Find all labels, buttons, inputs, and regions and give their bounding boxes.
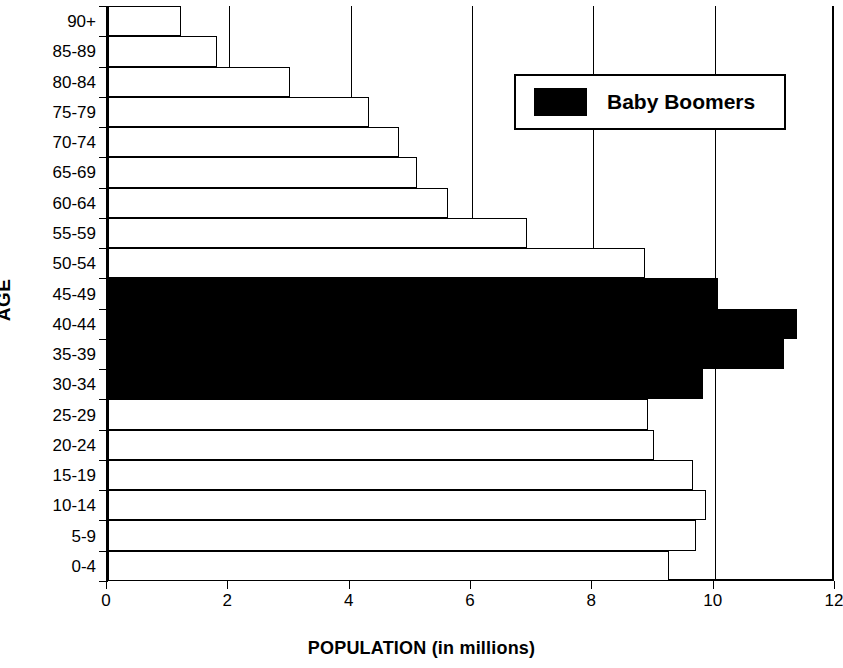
y-axis-tick-label: 45-49 (53, 286, 96, 303)
bar-row (108, 309, 836, 339)
bar-55-59 (108, 218, 527, 248)
y-axis-tick-label: 50-54 (53, 255, 96, 272)
x-axis-tick-label: 12 (825, 592, 843, 609)
x-axis-tick-label: 10 (703, 592, 722, 609)
x-axis-title: POPULATION (in millions) (0, 638, 843, 659)
bar-80-84 (108, 67, 290, 97)
bar-row (108, 399, 836, 429)
x-axis-tick (227, 581, 228, 589)
x-axis-tick-label: 2 (223, 592, 232, 609)
x-axis-tick-label: 6 (465, 592, 474, 609)
bar-row (108, 248, 836, 278)
y-axis-tick-label: 35-39 (53, 346, 96, 363)
bar-row (108, 520, 836, 550)
y-axis-tick-label: 90+ (67, 13, 96, 30)
y-axis-tick-label: 85-89 (53, 43, 96, 60)
y-axis-tick (99, 551, 108, 552)
y-axis-tick-label: 40-44 (53, 316, 96, 333)
x-axis-tick (470, 581, 471, 589)
bar-40-44 (108, 309, 797, 339)
bar-90plus (108, 6, 181, 36)
bar-60-64 (108, 188, 448, 218)
bar-row (108, 430, 836, 460)
y-axis-tick (99, 127, 108, 128)
bar-10-14 (108, 490, 706, 520)
y-axis-tick-label: 70-74 (53, 134, 96, 151)
bar-20-24 (108, 430, 654, 460)
bar-5-9 (108, 520, 696, 550)
y-axis-tick (99, 218, 108, 219)
bar-row (108, 6, 836, 36)
x-axis-tick (834, 581, 835, 589)
x-axis-tick-label: 8 (587, 592, 596, 609)
y-axis-tick (99, 36, 108, 37)
y-axis-tick-label: 80-84 (53, 74, 96, 91)
x-axis-tick (349, 581, 350, 589)
y-axis-tick-label: 25-29 (53, 407, 96, 424)
bar-15-19 (108, 460, 693, 490)
x-axis-tick (591, 581, 592, 589)
chart-figure: AGE 90+85-8980-8475-7970-7465-6960-6455-… (0, 0, 843, 668)
y-axis-tick (99, 369, 108, 370)
bar-85-89 (108, 36, 217, 66)
bar-row (108, 369, 836, 399)
y-axis-tick (99, 278, 108, 279)
y-axis-tick (99, 248, 108, 249)
y-axis-tick (99, 157, 108, 158)
bar-row (108, 278, 836, 308)
y-axis-tick (99, 460, 108, 461)
y-axis-tick (99, 188, 108, 189)
bar-row (108, 36, 836, 66)
legend-swatch-baby-boomers (534, 88, 587, 116)
bar-45-49 (108, 278, 718, 308)
bar-row (108, 157, 836, 187)
y-axis-tick-label: 75-79 (53, 104, 96, 121)
bar-65-69 (108, 157, 417, 187)
y-axis-tick-label: 65-69 (53, 164, 96, 181)
x-axis-tick (106, 581, 107, 589)
y-axis-tick (99, 399, 108, 400)
bar-30-34 (108, 369, 703, 399)
y-axis-tick (99, 67, 108, 68)
x-axis-tick (713, 581, 714, 589)
legend: Baby Boomers (514, 74, 786, 130)
bar-row (108, 218, 836, 248)
y-axis-tick (99, 6, 108, 7)
y-axis-tick (99, 520, 108, 521)
y-axis-title: AGE (0, 279, 15, 322)
y-axis-tick-label: 55-59 (53, 225, 96, 242)
bar-50-54 (108, 248, 645, 278)
y-axis-tick-label: 0-4 (71, 558, 96, 575)
y-axis-tick-label: 5-9 (71, 528, 96, 545)
bar-row (108, 188, 836, 218)
y-axis-tick-label: 60-64 (53, 195, 96, 212)
bar-row (108, 460, 836, 490)
y-axis-tick (99, 490, 108, 491)
y-axis-tick (99, 430, 108, 431)
y-axis-tick-label: 30-34 (53, 376, 96, 393)
bar-35-39 (108, 339, 784, 369)
bar-row (108, 551, 836, 581)
y-axis-tick (99, 309, 108, 310)
y-axis-tick-label: 15-19 (53, 467, 96, 484)
bar-70-74 (108, 127, 399, 157)
bar-25-29 (108, 399, 648, 429)
legend-label-baby-boomers: Baby Boomers (607, 90, 755, 114)
x-axis-tick-label: 0 (101, 592, 110, 609)
y-axis-tick (99, 97, 108, 98)
x-axis-tick-label: 4 (344, 592, 353, 609)
bar-row (108, 339, 836, 369)
bar-0-4 (108, 551, 669, 581)
bar-75-79 (108, 97, 369, 127)
y-axis-tick-label: 10-14 (53, 497, 96, 514)
bar-row (108, 490, 836, 520)
y-axis-tick-label: 20-24 (53, 437, 96, 454)
bar-row (108, 127, 836, 157)
y-axis-tick (99, 339, 108, 340)
